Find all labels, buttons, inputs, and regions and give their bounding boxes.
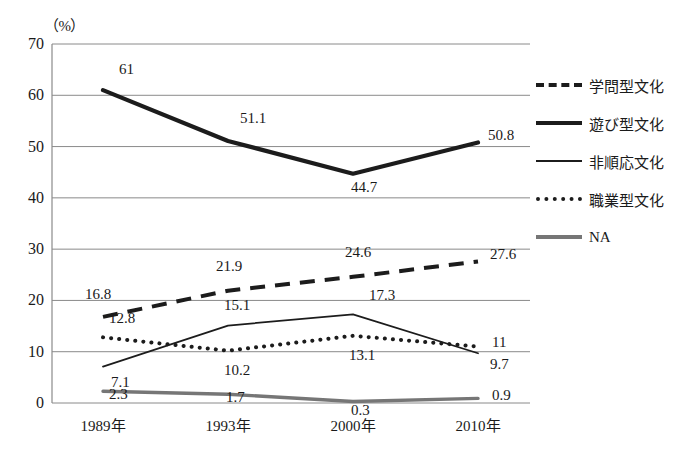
line-chart: （%） 学問型文化 遊び型文化 非順応文化 職業型文化 NA 706050403…	[0, 0, 685, 453]
legend-key-dotted-line-icon	[536, 192, 582, 206]
data-point-label: 10.2	[224, 363, 250, 378]
series-line	[103, 90, 478, 174]
legend-key-dashed-line-icon	[536, 78, 582, 92]
legend-label: 非順応文化	[589, 151, 664, 172]
y-axis-tick-label: 50	[8, 139, 44, 155]
legend-item-na[interactable]: NA	[536, 218, 682, 256]
data-point-label: 44.7	[351, 180, 377, 195]
legend-label: 学問型文化	[589, 75, 664, 96]
x-axis-tick-label: 2000年	[293, 418, 413, 434]
x-axis-tick-label: 1993年	[168, 418, 288, 434]
data-point-label: 51.1	[240, 111, 266, 126]
series-line	[103, 391, 478, 401]
data-point-label: 9.7	[490, 357, 509, 372]
legend-item-asobi[interactable]: 遊び型文化	[536, 104, 682, 142]
x-axis-tick-label: 1989年	[43, 418, 163, 434]
legend-item-hijunno[interactable]: 非順応文化	[536, 142, 682, 180]
data-point-label: 15.1	[224, 298, 250, 313]
data-point-label: 24.6	[345, 245, 371, 260]
data-point-label: 27.6	[490, 247, 516, 262]
data-point-label: 1.7	[226, 390, 245, 405]
y-axis-tick-label: 60	[8, 87, 44, 103]
data-point-label: 16.8	[85, 287, 111, 302]
data-point-label: 2.3	[109, 387, 128, 402]
data-point-label: 11	[492, 335, 506, 350]
legend-item-shokugyo[interactable]: 職業型文化	[536, 180, 682, 218]
legend-item-gakumon[interactable]: 学問型文化	[536, 66, 682, 104]
data-point-label: 17.3	[369, 288, 395, 303]
y-axis-tick-label: 0	[8, 395, 44, 411]
legend-label: 職業型文化	[589, 189, 664, 210]
legend-key-thin-line-icon	[536, 154, 582, 168]
data-point-label: 61	[119, 62, 134, 77]
data-point-label: 0.9	[492, 388, 511, 403]
data-point-label: 0.3	[351, 403, 370, 418]
series-line	[103, 314, 478, 366]
data-point-label: 21.9	[216, 259, 242, 274]
legend-label: NA	[589, 229, 611, 246]
y-axis-tick-label: 10	[8, 344, 44, 360]
data-point-label: 13.1	[349, 348, 375, 363]
y-axis-tick-label: 40	[8, 190, 44, 206]
legend-key-thick-line-icon	[536, 116, 582, 130]
data-point-label: 50.8	[488, 128, 514, 143]
series-line	[103, 261, 478, 316]
y-axis-tick-label: 70	[8, 36, 44, 52]
chart-legend: 学問型文化 遊び型文化 非順応文化 職業型文化 NA	[536, 66, 682, 256]
y-axis-tick-label: 20	[8, 292, 44, 308]
y-axis-tick-label: 30	[8, 241, 44, 257]
legend-label: 遊び型文化	[589, 113, 664, 134]
x-axis-tick-label: 2010年	[418, 418, 538, 434]
data-point-label: 12.8	[109, 311, 135, 326]
legend-key-gray-line-icon	[536, 230, 582, 244]
